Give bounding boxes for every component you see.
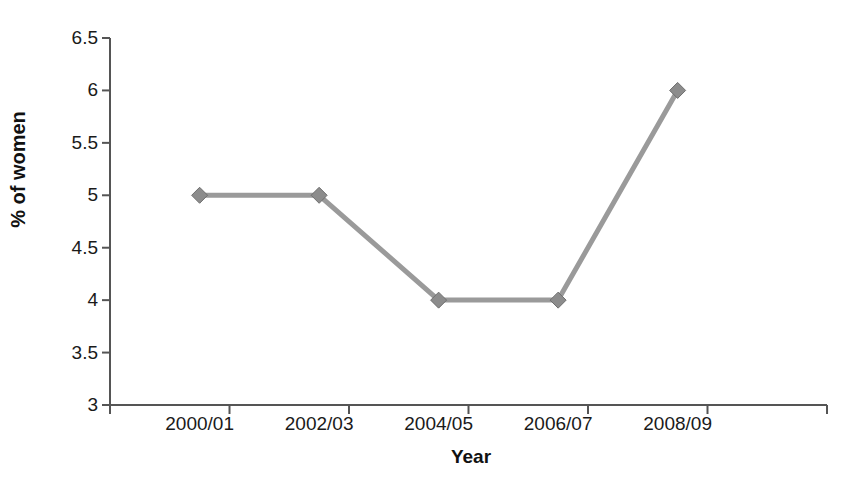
data-series	[192, 82, 686, 308]
plot-area	[0, 0, 858, 490]
line-chart: % of women 33.544.555.566.5 2000/012002/…	[0, 0, 858, 490]
axes	[102, 38, 827, 414]
data-point-marker[interactable]	[192, 187, 208, 203]
series-line	[200, 90, 678, 300]
